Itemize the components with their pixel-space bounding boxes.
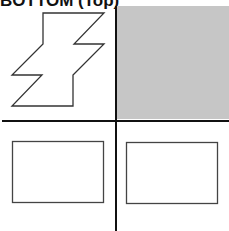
bottom-left-rectangle xyxy=(13,142,104,203)
zigzag-bolt-shape xyxy=(12,13,104,106)
diagram-shapes xyxy=(0,0,229,231)
bottom-right-rectangle xyxy=(127,143,218,204)
